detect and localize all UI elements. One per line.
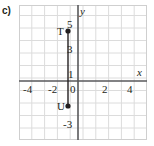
figure-container: c): [0, 0, 154, 146]
y-axis-label: y: [80, 6, 85, 17]
x-tick-neg4: -4: [23, 84, 32, 95]
y-tick-neg3: -3: [63, 119, 72, 130]
y-tick-3: 3: [67, 44, 73, 55]
x-tick-2: 2: [102, 84, 108, 95]
point-T-label: T: [57, 26, 64, 37]
labels: y x 5 3 1 -3 -4 -2 0 2 4 T U: [19, 5, 147, 140]
coordinate-plane: y x 5 3 1 -3 -4 -2 0 2 4 T U: [19, 5, 147, 140]
x-axis-label: x: [137, 67, 142, 78]
x-tick-neg2: -2: [48, 84, 57, 95]
x-tick-4: 4: [127, 84, 133, 95]
y-tick-1: 1: [68, 69, 74, 80]
point-U-label: U: [57, 101, 65, 112]
part-label: c): [2, 5, 11, 17]
x-tick-0: 0: [70, 84, 76, 95]
y-tick-5: 5: [67, 19, 73, 30]
